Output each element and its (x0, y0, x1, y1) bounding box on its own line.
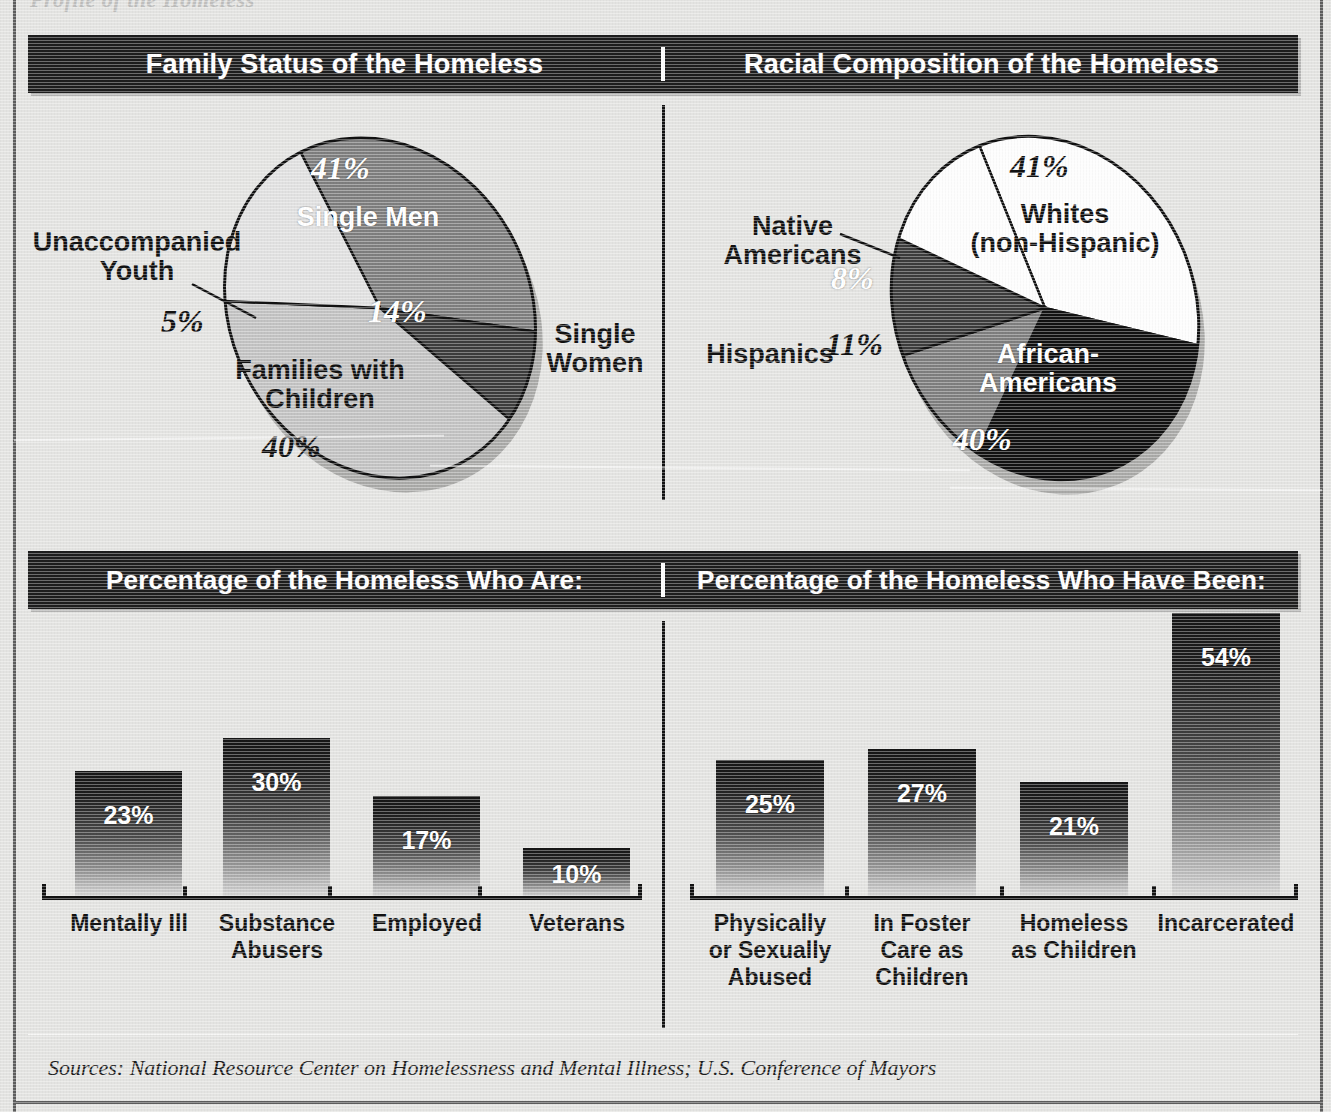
page-border-left (13, 0, 16, 1112)
panel-title-who-have-been: Percentage of the Homeless Who Have Been… (665, 565, 1298, 596)
bar-label-incarcerated: Incarcerated (1140, 910, 1312, 937)
bar-label-in-foster-care: In Foster Care as Children (836, 910, 1008, 991)
axis-tick-4 (845, 886, 849, 897)
bar-value-homeless-as-children: 21% (1020, 812, 1128, 841)
bar-label-homeless-as-children: Homeless as Children (988, 910, 1160, 964)
pie-label-african-americans: African- Americans (953, 340, 1143, 398)
bar-label-physically-sexually-abused: Physically or Sexually Abused (684, 910, 856, 991)
infographic-page: Profile of the Homeless Family Status of… (0, 0, 1331, 1112)
panel-title-family-status: Family Status of the Homeless (28, 49, 661, 80)
bar-value-physically-sexually-abused: 25% (716, 790, 824, 819)
panel-title-racial-composition: Racial Composition of the Homeless (665, 49, 1298, 80)
axis-tick-5 (1000, 886, 1004, 897)
axis-tick-6 (1152, 886, 1156, 897)
pie-label-single-women: Single Women (530, 320, 660, 378)
page-border-bottom (13, 1101, 1323, 1104)
pie-label-single-men: Single Men (273, 203, 463, 232)
axis-cap-right-2 (1294, 884, 1298, 898)
bottom-panel-divider (662, 621, 665, 1028)
page-border-right (1320, 0, 1323, 1112)
bar-physically-sexually-abused (716, 760, 824, 897)
bar-value-in-foster-care: 27% (868, 779, 976, 808)
pie-label-native-americans: Native Americans (700, 212, 885, 270)
bar-in-foster-care (868, 749, 976, 897)
pie-label-whites: Whites (non-Hispanic) (940, 200, 1190, 258)
top-header-bar: Family Status of the Homeless Racial Com… (28, 35, 1298, 93)
panel-title-who-are: Percentage of the Homeless Who Are: (28, 565, 661, 596)
source-note: Sources: National Resource Center on Hom… (48, 1055, 936, 1081)
pie-value-single-men: 41% (311, 150, 370, 187)
pie-label-families-with-children: Families with Children (215, 356, 425, 414)
pie-value-unaccompanied-youth: 5% (161, 303, 204, 340)
pie-label-unaccompanied-youth: Unaccompanied Youth (22, 228, 252, 286)
top-panel-divider (662, 105, 665, 500)
pie-label-hispanics: Hispanics (690, 340, 850, 369)
bar-chart-right-axis (690, 896, 1298, 900)
pie-value-whites: 41% (1010, 148, 1069, 185)
bottom-header-bar: Percentage of the Homeless Who Are: Perc… (28, 551, 1298, 609)
pie-value-families-with-children: 40% (262, 428, 321, 465)
pie-value-african-americans: 40% (953, 421, 1012, 458)
axis-cap-left-2 (690, 884, 694, 898)
pie-value-single-women: 14% (368, 293, 427, 330)
bar-value-incarcerated: 54% (1172, 643, 1280, 672)
